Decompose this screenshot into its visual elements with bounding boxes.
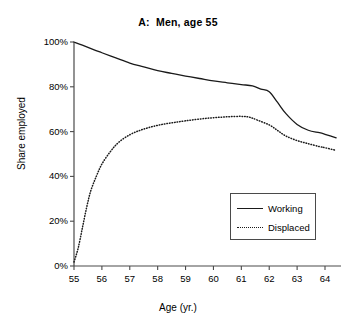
- legend-line-solid-icon: [237, 204, 263, 214]
- y-axis-title: Share employed: [16, 49, 27, 219]
- x-axis-tick-label: 58: [143, 274, 173, 284]
- x-axis-tick-label: 61: [226, 274, 256, 284]
- x-axis-tick-label: 63: [282, 274, 312, 284]
- legend-item-working: Working: [231, 203, 315, 215]
- y-axis-tick-label: 20%: [28, 216, 68, 226]
- x-axis-tick-label: 60: [198, 274, 228, 284]
- x-axis-tick-label: 59: [171, 274, 201, 284]
- y-axis-tick-label: 40%: [28, 171, 68, 181]
- series-line-working: [74, 42, 336, 138]
- y-axis-tick-label: 0%: [28, 261, 68, 271]
- x-axis-tick-label: 56: [87, 274, 117, 284]
- y-axis-tick-label: 60%: [28, 127, 68, 137]
- legend-line-dotted-icon: [237, 223, 263, 233]
- series-line-displaced: [74, 116, 336, 262]
- x-axis-tick-label: 55: [59, 274, 89, 284]
- y-axis-tick-label: 100%: [28, 37, 68, 47]
- legend-label-working: Working: [268, 204, 303, 214]
- x-axis-tick-label: 57: [115, 274, 145, 284]
- chart-legend: Working Displaced: [230, 193, 316, 240]
- x-axis-tick-label: 62: [254, 274, 284, 284]
- legend-label-displaced: Displaced: [268, 223, 310, 233]
- legend-item-displaced: Displaced: [231, 222, 315, 234]
- cropped-text: [0, 0, 2, 3]
- chart-figure: A: Men, age 55 Share employed Age (yr.) …: [0, 0, 356, 328]
- y-axis-tick-label: 80%: [28, 82, 68, 92]
- x-axis-tick-label: 64: [310, 274, 340, 284]
